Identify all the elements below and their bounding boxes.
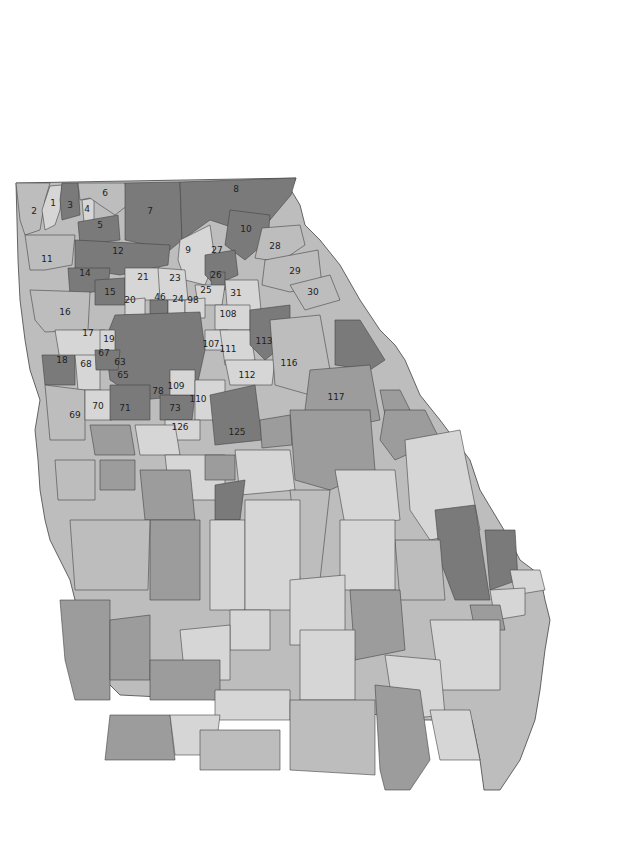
district-11[interactable]	[25, 235, 75, 270]
svg-text:7: 7	[147, 206, 153, 216]
svg-text:63: 63	[114, 357, 125, 367]
svg-text:109: 109	[167, 381, 184, 391]
district-148[interactable]	[70, 520, 150, 590]
district-128[interactable]	[90, 425, 135, 455]
district-129[interactable]	[55, 460, 95, 500]
svg-text:18: 18	[56, 355, 68, 365]
district-147[interactable]	[210, 520, 245, 610]
svg-text:117: 117	[327, 392, 344, 402]
svg-text:65: 65	[117, 370, 128, 380]
district-46[interactable]	[150, 300, 168, 315]
svg-text:17: 17	[82, 328, 93, 338]
district-130[interactable]	[100, 460, 135, 490]
svg-text:126: 126	[171, 422, 188, 432]
district-170[interactable]	[215, 690, 290, 720]
svg-text:1: 1	[50, 198, 56, 208]
district-135[interactable]	[140, 470, 195, 520]
svg-text:26: 26	[210, 270, 222, 280]
svg-text:112: 112	[238, 370, 255, 380]
svg-text:111: 111	[219, 344, 236, 354]
svg-text:29: 29	[289, 266, 301, 276]
svg-text:110: 110	[189, 394, 206, 404]
svg-text:4: 4	[84, 204, 90, 214]
svg-text:73: 73	[169, 403, 180, 413]
svg-text:113: 113	[255, 336, 272, 346]
svg-text:19: 19	[103, 334, 115, 344]
district-168[interactable]	[350, 590, 405, 660]
district-166[interactable]	[395, 540, 445, 600]
district-174[interactable]	[200, 730, 280, 770]
district-7[interactable]	[125, 182, 182, 250]
district-149[interactable]	[60, 600, 110, 700]
svg-text:16: 16	[59, 307, 71, 317]
svg-text:23: 23	[169, 273, 180, 283]
svg-text:28: 28	[269, 241, 281, 251]
svg-text:69: 69	[69, 410, 81, 420]
district-176[interactable]	[290, 700, 375, 775]
svg-text:46: 46	[154, 292, 166, 302]
svg-text:30: 30	[307, 287, 319, 297]
svg-text:2: 2	[31, 206, 37, 216]
svg-text:98: 98	[187, 295, 199, 305]
district-155[interactable]	[340, 520, 395, 590]
svg-text:20: 20	[124, 295, 136, 305]
svg-text:24: 24	[172, 294, 184, 304]
district-156[interactable]	[335, 470, 400, 525]
district-171[interactable]	[150, 660, 220, 700]
svg-text:3: 3	[67, 200, 73, 210]
svg-text:14: 14	[79, 268, 91, 278]
svg-text:21: 21	[137, 272, 148, 282]
svg-text:10: 10	[240, 224, 252, 234]
svg-text:31: 31	[230, 288, 241, 298]
svg-text:116: 116	[280, 358, 297, 368]
svg-text:15: 15	[104, 287, 115, 297]
svg-text:68: 68	[80, 359, 92, 369]
svg-text:8: 8	[233, 184, 239, 194]
district-177[interactable]	[375, 685, 430, 790]
svg-text:6: 6	[102, 188, 108, 198]
svg-text:107: 107	[202, 339, 219, 349]
svg-text:5: 5	[97, 220, 103, 230]
district-172[interactable]	[105, 715, 175, 760]
svg-text:25: 25	[200, 285, 211, 295]
district-145[interactable]	[215, 480, 245, 520]
district-134[interactable]	[150, 520, 200, 600]
district-153[interactable]	[230, 610, 270, 650]
svg-text:71: 71	[119, 403, 130, 413]
district-169[interactable]	[300, 630, 355, 700]
georgia-district-map: 21 34 65 78 1011 1214 1516 927 2628 2930…	[0, 0, 638, 868]
svg-text:67: 67	[98, 348, 109, 358]
svg-text:12: 12	[112, 246, 123, 256]
svg-text:11: 11	[41, 254, 52, 264]
svg-text:9: 9	[185, 245, 191, 255]
svg-text:108: 108	[219, 309, 236, 319]
district-141[interactable]	[260, 415, 292, 448]
district-150[interactable]	[110, 615, 150, 680]
svg-text:27: 27	[211, 245, 222, 255]
svg-text:125: 125	[228, 427, 245, 437]
svg-text:70: 70	[92, 401, 104, 411]
svg-text:78: 78	[152, 386, 164, 396]
district-macon[interactable]	[205, 455, 235, 480]
